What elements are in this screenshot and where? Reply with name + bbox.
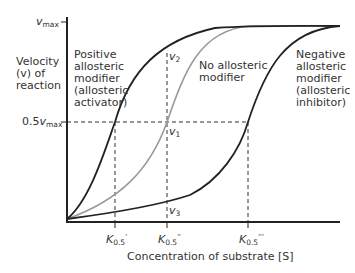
label-no-modifier: No allostericmodifier — [199, 60, 267, 84]
label-negative-modifier: Negativeallostericmodifier(allostericinh… — [296, 49, 350, 109]
label-v2: v2 — [169, 50, 180, 66]
label-positive-modifier: Positiveallostericmodifier(allostericact… — [74, 49, 128, 109]
tick-k05-1: K0.5' — [106, 231, 127, 249]
x-axis-label: Concentration of substrate [S] — [127, 250, 294, 263]
label-v1: v1 — [169, 125, 180, 141]
label-v3: v3 — [169, 204, 180, 220]
tick-k05-3: K0.5''' — [239, 231, 264, 249]
tick-k05-2: K0.5'' — [158, 231, 181, 249]
tick-vmax: vmax — [36, 15, 59, 31]
y-axis-label: Velocity(v) ofreaction — [16, 56, 61, 92]
tick-half-vmax: 0.5vmax — [22, 115, 62, 131]
